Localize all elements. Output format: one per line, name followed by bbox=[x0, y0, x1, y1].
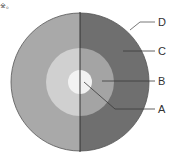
label-a: A bbox=[158, 103, 166, 115]
leader-line-d bbox=[130, 22, 155, 30]
label-d: D bbox=[158, 16, 166, 28]
label-b: B bbox=[158, 75, 165, 87]
label-c: C bbox=[158, 45, 166, 57]
layered-sphere-diagram: D C B A bbox=[0, 0, 175, 157]
